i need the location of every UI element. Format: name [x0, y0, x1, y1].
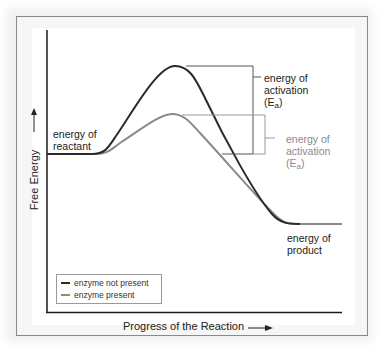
x-axis-label: Progress of the Reaction	[123, 320, 244, 332]
x-arrow-head	[265, 325, 273, 331]
label-activation-dark: energy of activation (Ea)	[264, 72, 308, 112]
y-axis-label: Free Energy	[28, 120, 40, 240]
label-activation-light: energy of activation (Ea)	[286, 133, 330, 173]
y-arrow-head	[31, 108, 37, 115]
legend: enzyme not present enzyme present	[56, 274, 162, 304]
label-energy-of-reactant: energy of reactant	[53, 128, 97, 152]
legend-swatch-dark	[61, 282, 70, 284]
legend-item-present: enzyme present	[61, 289, 161, 301]
legend-item-not-present: enzyme not present	[61, 277, 161, 289]
label-energy-of-product: energy of product	[287, 232, 331, 256]
legend-swatch-light	[61, 294, 70, 296]
